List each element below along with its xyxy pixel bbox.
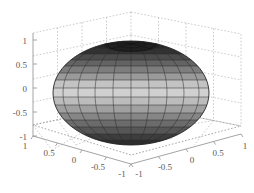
y-tick-label: 1 bbox=[243, 141, 248, 151]
figure-container: 1 0.5 0 -0.5 -1 1 0.5 0 -0.5 -1 -1 -0.5 … bbox=[0, 0, 254, 193]
x-tick-label: -1 bbox=[118, 169, 126, 179]
x-tick-label: 0.5 bbox=[43, 148, 55, 158]
sphere-surface-chart: 1 0.5 0 -0.5 -1 1 0.5 0 -0.5 -1 -1 -0.5 … bbox=[0, 0, 254, 193]
x-tick-label: -0.5 bbox=[91, 162, 106, 172]
figure-caption bbox=[0, 184, 254, 193]
y-tick-label: -1 bbox=[135, 169, 143, 179]
y-tick-label: 0.5 bbox=[212, 148, 224, 158]
y-tick-label: 0 bbox=[190, 155, 195, 165]
x-tick-label: 0 bbox=[72, 155, 77, 165]
z-tick-label: 1 bbox=[23, 36, 28, 46]
z-tick-label: 0.5 bbox=[16, 60, 28, 70]
z-tick-label: 0 bbox=[23, 84, 28, 94]
z-tick-label: -0.5 bbox=[13, 108, 28, 118]
sphere-surface bbox=[53, 36, 209, 147]
y-tick-label: -0.5 bbox=[158, 162, 173, 172]
z-tick-label: -1 bbox=[20, 132, 28, 142]
z-axis-tick-labels: 1 0.5 0 -0.5 -1 bbox=[13, 36, 28, 142]
x-tick-label: 1 bbox=[23, 141, 28, 151]
z-axis-ticks bbox=[33, 40, 37, 136]
y-axis-tick-labels: -1 -0.5 0 0.5 1 bbox=[135, 141, 247, 179]
x-axis-tick-labels: 1 0.5 0 -0.5 -1 bbox=[23, 141, 126, 179]
